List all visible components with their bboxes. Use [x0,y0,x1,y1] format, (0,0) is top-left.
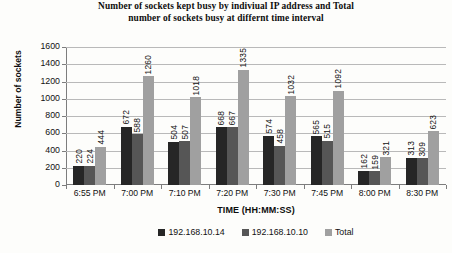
bar-group: 50450710187:10 PM [161,47,209,185]
legend-item[interactable]: 192.168.10.14 [158,227,224,237]
bar[interactable]: 220 [73,166,84,185]
bar[interactable]: 309 [417,158,428,185]
bar[interactable]: 224 [84,166,95,185]
bar-value-label: 159 [369,155,380,170]
bar[interactable]: 515 [322,141,333,185]
bar-value-label: 313 [406,141,417,156]
bar-value-label: 220 [73,149,84,164]
bar-value-label: 444 [95,130,106,145]
bar-group-bars: 6725881260 [114,47,162,185]
y-axis-tick-value: 800 [18,110,60,120]
bar[interactable]: 321 [380,157,391,185]
legend-swatch [242,229,249,236]
x-axis-tick-label: 7:00 PM [114,185,162,198]
bar-value-label: 574 [263,119,274,134]
bar[interactable]: 1335 [238,70,249,185]
bar-group-bars: 220224444 [66,47,114,185]
bar-group: 1621593218:00 PM [351,47,399,185]
bar-value-label: 321 [380,141,391,156]
bar[interactable]: 1092 [333,91,344,185]
bar-group-bars: 5655151092 [304,47,352,185]
chart-legend: 192.168.10.14192.168.10.10Total [66,227,446,237]
bar-value-label: 224 [84,149,95,164]
bar-value-label: 1092 [333,69,344,88]
bar-value-label: 458 [274,129,285,144]
x-axis-tick-label: 7:30 PM [256,185,304,198]
y-axis-tick-value: 1000 [18,93,60,103]
x-axis-tick-label: 8:00 PM [351,185,399,198]
legend-item[interactable]: 192.168.10.10 [242,227,308,237]
x-axis-tick-mark [446,185,447,189]
y-axis-title: Number of sockets [13,19,23,159]
legend-label: 192.168.10.14 [168,227,224,237]
bar-value-label: 1018 [190,76,201,95]
bar-group-bars: 6686671335 [209,47,257,185]
bar-value-label: 623 [428,115,439,130]
x-axis-tick-label: 7:20 PM [209,185,257,198]
x-axis-tick-label: 8:30 PM [399,185,447,198]
bar-group: 67258812607:00 PM [114,47,162,185]
bar-value-label: 504 [168,125,179,140]
bar-value-label: 672 [121,110,132,125]
bar-value-label: 1335 [238,48,249,67]
bar[interactable]: 588 [132,134,143,185]
bar-value-label: 668 [216,111,227,126]
bar[interactable]: 667 [227,127,238,185]
bar[interactable]: 313 [406,158,417,185]
plot-area: 020040060080010001200140016002202244446:… [66,47,446,185]
x-axis-tick-label: 7:10 PM [161,185,209,198]
x-axis-tick-label: 6:55 PM [66,185,114,198]
y-axis-tick-value: 1600 [18,41,60,51]
bar-group: 56551510927:45 PM [304,47,352,185]
bar[interactable]: 159 [369,171,380,185]
bar-group: 66866713357:20 PM [209,47,257,185]
bar-value-label: 1260 [143,55,154,74]
bar-group-bars: 5045071018 [161,47,209,185]
bar-value-label: 162 [358,154,369,169]
bar-group-bars: 162159321 [351,47,399,185]
bar[interactable]: 504 [168,142,179,185]
bar-chart: Number of sockets kept busy by indiviual… [0,0,452,253]
bar[interactable]: 668 [216,127,227,185]
x-axis-title: TIME (HH:MM:SS) [66,205,446,215]
bar-value-label: 507 [179,125,190,140]
bar[interactable]: 623 [428,131,439,185]
legend-label: 192.168.10.10 [252,227,308,237]
legend-item[interactable]: Total [325,227,354,237]
bar-value-label: 1032 [285,75,296,94]
bar[interactable]: 565 [311,136,322,185]
y-axis-tick-value: 400 [18,145,60,155]
bar-group: 2202244446:55 PM [66,47,114,185]
bar[interactable]: 1032 [285,96,296,185]
bar-value-label: 565 [311,120,322,135]
bar[interactable]: 574 [263,136,274,186]
y-axis-tick-value: 200 [18,162,60,172]
bar-group-bars: 5744581032 [256,47,304,185]
x-axis-tick-label: 7:45 PM [304,185,352,198]
chart-title-line-1: Number of sockets kept busy by indiviual… [40,1,412,13]
bar[interactable]: 444 [95,147,106,185]
bar-value-label: 588 [132,118,143,133]
y-axis-tick-value: 0 [18,179,60,189]
bar[interactable]: 458 [274,146,285,186]
y-axis-tick-value: 1400 [18,58,60,68]
bar-value-label: 515 [322,124,333,139]
bar-value-label: 667 [227,111,238,126]
bar[interactable]: 672 [121,127,132,185]
bar[interactable]: 1018 [190,97,201,185]
bar-group-bars: 313309623 [399,47,447,185]
bar[interactable]: 162 [358,171,369,185]
legend-label: Total [335,227,354,237]
legend-swatch [325,229,332,236]
bar-group: 57445810327:30 PM [256,47,304,185]
bar-group: 3133096238:30 PM [399,47,447,185]
chart-title-line-2: number of sockets busy at differnt time … [40,13,412,25]
bar[interactable]: 507 [179,141,190,185]
chart-title: Number of sockets kept busy by indiviual… [40,1,412,24]
bar-value-label: 309 [417,142,428,157]
legend-swatch [158,229,165,236]
bar[interactable]: 1260 [143,76,154,185]
y-axis-tick-value: 1200 [18,76,60,86]
y-axis-tick-value: 600 [18,127,60,137]
